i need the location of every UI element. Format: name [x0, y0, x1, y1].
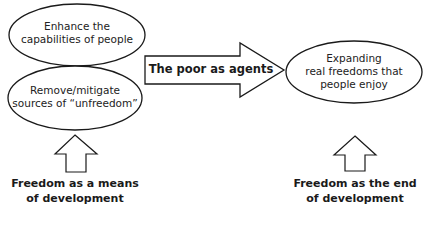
up-arrow-right-icon	[334, 136, 376, 171]
ellipse-label-line: Expanding	[292, 52, 416, 65]
ellipse-label-expanding: Expanding real freedoms that people enjo…	[292, 52, 416, 91]
ellipse-label-line: sources of “unfreedom”	[12, 97, 138, 110]
caption-line: Freedom as the end	[290, 177, 420, 192]
ellipse-label-line: Remove/mitigate	[12, 84, 138, 97]
caption-end: Freedom as the end of development	[290, 177, 420, 207]
up-arrow-left-icon	[55, 135, 97, 172]
ellipse-label-line: capabilities of people	[14, 33, 140, 46]
caption-line: of development	[290, 192, 420, 207]
caption-means: Freedom as a means of development	[10, 177, 140, 207]
ellipse-label-line: Enhance the	[14, 20, 140, 33]
center-arrow-label: The poor as agents	[148, 62, 274, 76]
ellipse-label-line: real freedoms that	[292, 65, 416, 78]
caption-line: Freedom as a means	[10, 177, 140, 192]
caption-line: of development	[10, 192, 140, 207]
ellipse-label-enhance: Enhance the capabilities of people	[14, 20, 140, 46]
ellipse-label-remove: Remove/mitigate sources of “unfreedom”	[12, 84, 138, 110]
ellipse-label-line: people enjoy	[292, 78, 416, 91]
